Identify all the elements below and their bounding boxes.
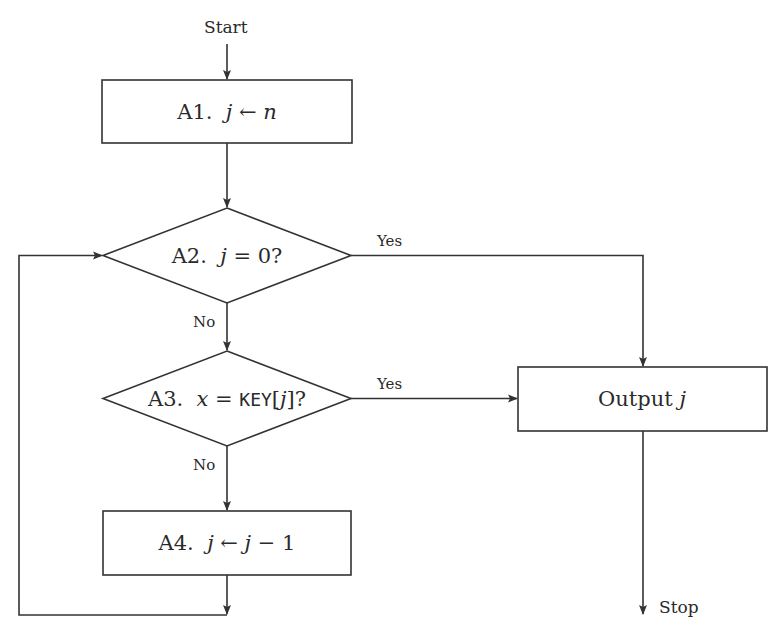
node-a4-label: A4. j ← j − 1 <box>159 533 296 554</box>
node-a3-var: x <box>197 387 209 411</box>
node-output-var: j <box>679 387 686 411</box>
node-a2-step: A2. <box>172 244 207 268</box>
node-output-text: Output <box>598 387 673 411</box>
flowchart-canvas: Start Stop A1. j ← n A2. j = 0? A3. x = … <box>0 0 782 641</box>
node-output-label: Output j <box>598 389 686 410</box>
node-a1-label: A1. j ← n <box>177 102 277 123</box>
node-a1-rhs: n <box>263 100 277 124</box>
edge-label-a3-no: No <box>193 458 215 473</box>
node-a3-close: ]? <box>287 387 306 411</box>
flowchart-graphics <box>0 0 782 641</box>
node-a2-label: A2. j = 0? <box>172 246 283 267</box>
node-a2-op: = <box>227 244 258 268</box>
edge-a2-yes-to-output <box>351 256 643 367</box>
edge-label-a2-yes: Yes <box>377 234 402 249</box>
node-a1-op: ← <box>232 100 263 124</box>
node-a3-label: A3. x = KEY[j]? <box>148 389 306 410</box>
node-a4-op: ← <box>214 531 245 555</box>
stop-label: Stop <box>659 599 699 616</box>
edge-label-a3-yes: Yes <box>377 377 402 392</box>
start-label: Start <box>204 19 248 36</box>
node-a1-step: A1. <box>177 100 212 124</box>
node-a4-step: A4. <box>159 531 194 555</box>
node-a3-step: A3. <box>148 387 183 411</box>
node-a3-open: [ <box>272 387 280 411</box>
node-a3-op: = <box>208 387 239 411</box>
node-a4-rhs-rest: − 1 <box>251 531 295 555</box>
node-a2-rhs: 0? <box>258 244 283 268</box>
node-a3-key: KEY <box>239 389 272 410</box>
edge-label-a2-no: No <box>193 315 215 330</box>
